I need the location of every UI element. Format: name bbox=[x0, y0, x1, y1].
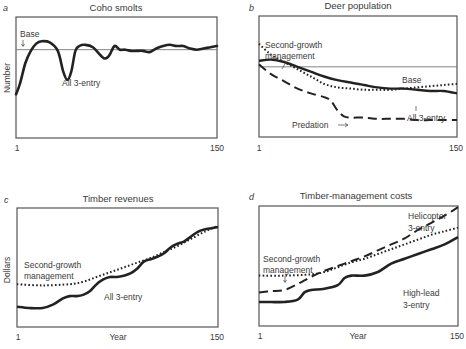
chart-title: Timber-management costs bbox=[300, 190, 413, 201]
x-axis-label: Year bbox=[109, 332, 126, 342]
panel-letter: b bbox=[249, 3, 254, 13]
x-tick-end: 150 bbox=[210, 332, 224, 342]
label-helicopter: Helicopter bbox=[408, 211, 446, 221]
panel-letter: d bbox=[249, 192, 255, 202]
chart-title: Deer population bbox=[324, 0, 391, 11]
x-tick-start: 1 bbox=[258, 331, 263, 341]
series-all-3-entry bbox=[259, 60, 457, 94]
label-second-growth: Second-growth bbox=[265, 40, 322, 50]
label-all-3-entry: All 3-entry bbox=[62, 78, 101, 88]
label-management: management bbox=[265, 51, 315, 61]
label-all-3-entry: All 3-entry bbox=[104, 292, 143, 302]
y-axis-label: Dollars bbox=[2, 257, 12, 283]
label-high-lead: High-lead bbox=[403, 288, 440, 298]
plot-frame bbox=[16, 17, 217, 138]
panel-letter: c bbox=[4, 195, 9, 205]
chart-title: Timber revenues bbox=[83, 193, 154, 204]
arrow-icon bbox=[22, 40, 25, 47]
x-axis-label: Year bbox=[349, 331, 366, 341]
series-all-3-entry bbox=[16, 41, 217, 94]
panel-a: a Coho smolts Base All 3-entry Number 1 … bbox=[2, 2, 224, 153]
figure: a Coho smolts Base All 3-entry Number 1 … bbox=[0, 0, 466, 349]
panel-b: b Deer population Second-growth manageme… bbox=[249, 0, 463, 153]
label-second-growth: Second-growth bbox=[24, 260, 81, 270]
x-tick-end: 150 bbox=[450, 331, 464, 341]
label-helicopter-3-entry: 3-entry bbox=[408, 223, 435, 233]
label-base: Base bbox=[402, 75, 422, 85]
label-base: Base bbox=[20, 29, 40, 39]
label-high-lead-3-entry: 3-entry bbox=[403, 300, 430, 310]
x-tick-start: 1 bbox=[257, 143, 262, 153]
y-axis-label: Number bbox=[2, 63, 12, 93]
label-second-growth: Second-growth bbox=[263, 254, 320, 264]
arrow-icon bbox=[284, 276, 287, 283]
x-tick-start: 1 bbox=[15, 143, 20, 153]
x-tick-end: 150 bbox=[449, 143, 463, 153]
label-management: management bbox=[263, 265, 313, 275]
label-predation: Predation bbox=[292, 120, 329, 130]
arrow-icon bbox=[338, 123, 348, 127]
panel-c: c Timber revenues Second-growth manageme… bbox=[2, 193, 224, 342]
x-tick-start: 1 bbox=[16, 332, 21, 342]
panel-letter: a bbox=[3, 3, 8, 13]
x-tick-end: 150 bbox=[210, 143, 224, 153]
chart-title: Coho smolts bbox=[90, 2, 143, 13]
panel-d: d Timber-management costs Helicopter 3-e… bbox=[249, 190, 464, 341]
label-management: management bbox=[24, 271, 74, 281]
label-all-3-entry: All 3-entry bbox=[407, 113, 446, 123]
series-predation bbox=[259, 64, 457, 120]
